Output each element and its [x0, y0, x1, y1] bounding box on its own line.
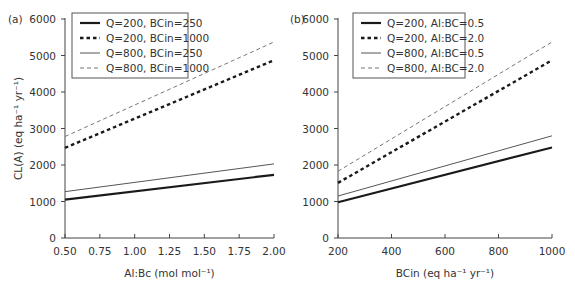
- x-axis-label: BCin (eq ha⁻¹ yr⁻¹): [396, 267, 494, 279]
- x-tick-label: 1.25: [158, 245, 181, 257]
- chart-panel-a: 01000200030004000500060000.500.751.001.2…: [8, 13, 286, 279]
- y-tick-label: 1000: [29, 196, 56, 208]
- legend: Q=200, Al:BC=0.5Q=200, Al:BC=2.0Q=800, A…: [353, 13, 484, 78]
- y-tick-label: 6000: [302, 13, 329, 25]
- y-tick-label: 6000: [29, 13, 56, 25]
- y-tick-label: 3000: [29, 123, 56, 135]
- legend: Q=200, BCin=250Q=200, BCin=1000Q=800, BC…: [72, 13, 209, 78]
- y-tick-label: 5000: [302, 50, 329, 62]
- x-tick-label: 600: [435, 245, 455, 257]
- y-tick-label: 2000: [302, 159, 329, 171]
- chart-panel-b: 0100020003000400050006000200400600800100…: [290, 13, 565, 279]
- panel-label: (b): [290, 13, 305, 25]
- y-tick-label: 1000: [302, 196, 329, 208]
- x-tick-label: 1.50: [193, 245, 216, 257]
- series-line: [338, 147, 552, 202]
- x-tick-label: 1000: [539, 245, 566, 257]
- legend-label: Q=200, Al:BC=0.5: [387, 17, 484, 29]
- figure: 01000200030004000500060000.500.751.001.2…: [0, 0, 575, 289]
- x-tick-label: 2.00: [262, 245, 285, 257]
- x-tick-label: 0.75: [88, 245, 111, 257]
- y-axis-label: CL(A) (eq ha⁻¹ yr⁻¹): [12, 77, 24, 180]
- legend-label: Q=800, Al:BC=0.5: [387, 47, 484, 59]
- series-line: [338, 136, 552, 196]
- x-axis-label: Al:Bc (mol mol⁻¹): [124, 267, 214, 279]
- y-tick-label: 4000: [29, 86, 56, 98]
- x-tick-label: 200: [328, 245, 348, 257]
- panel-label: (a): [8, 13, 23, 25]
- x-tick-label: 1.00: [123, 245, 146, 257]
- y-tick-label: 0: [322, 232, 329, 244]
- x-tick-label: 1.75: [227, 245, 250, 257]
- y-tick-label: 0: [49, 232, 56, 244]
- x-tick-label: 400: [381, 245, 401, 257]
- y-tick-label: 4000: [302, 86, 329, 98]
- x-tick-label: 0.50: [53, 245, 76, 257]
- legend-label: Q=800, BCin=250: [106, 47, 203, 59]
- legend-label: Q=200, BCin=1000: [106, 32, 209, 44]
- x-tick-label: 800: [488, 245, 508, 257]
- y-tick-label: 3000: [302, 123, 329, 135]
- legend-label: Q=800, BCin=1000: [106, 62, 209, 74]
- legend-label: Q=200, BCin=250: [106, 17, 203, 29]
- y-tick-label: 2000: [29, 159, 56, 171]
- legend-label: Q=200, Al:BC=2.0: [387, 32, 484, 44]
- y-tick-label: 5000: [29, 50, 56, 62]
- legend-label: Q=800, Al:BC=2.0: [387, 62, 484, 74]
- series-line: [338, 60, 552, 183]
